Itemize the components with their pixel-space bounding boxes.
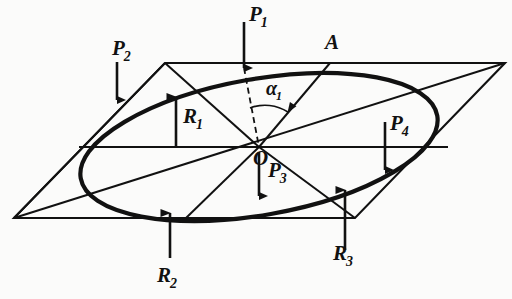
label-force-p2: P2 [112,38,132,59]
label-point-o: O [253,148,268,169]
radius-line-to-top-left-corner [165,63,259,147]
label-reaction-r1: R1 [183,106,204,127]
label-reaction-r2: R2 [157,265,178,286]
label-reaction-r3: R3 [333,243,354,264]
angle-arc-alpha1 [250,105,288,112]
radius-line-lower-left [186,147,259,218]
label-force-p4: P4 [390,113,410,134]
label-point-a: A [325,32,339,53]
figure-container: P1 P2 P3 P4 R1 R2 R3 A O α1 [0,0,512,299]
label-force-p3: P3 [268,160,288,181]
label-angle-alpha1: α1 [266,78,283,98]
label-force-p1: P1 [249,4,269,25]
